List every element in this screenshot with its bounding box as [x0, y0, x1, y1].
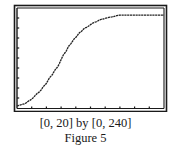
figure-label: Figure 5: [0, 131, 171, 145]
calculator-plot: [0, 0, 171, 112]
window-caption: [0, 20] by [0, 240]: [0, 116, 171, 130]
figure: [0, 20] by [0, 240] Figure 5: [0, 0, 171, 155]
plot-frame: [15, 6, 167, 112]
